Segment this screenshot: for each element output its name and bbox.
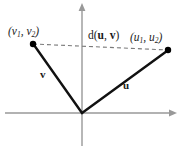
point-v-close: ): [35, 25, 39, 37]
distance-prefix: d(: [88, 29, 98, 41]
distance-dashed-line: [33, 44, 168, 50]
point-u-sub1: 1: [140, 36, 144, 45]
vector-v-label: v: [40, 69, 46, 80]
point-v-sub1: 1: [17, 30, 21, 39]
point-u-close: ): [159, 31, 163, 43]
y-axis-arrowhead-icon: [79, 3, 86, 11]
distance-close: ): [116, 29, 120, 41]
point-v-label: (v1, v2): [8, 26, 39, 38]
vector-distance-figure: (v1, v2) (u1, u2) d(u, v) v u: [0, 0, 187, 150]
vector-u-label: u: [123, 80, 129, 91]
figure-canvas: [0, 0, 187, 150]
point-u-mid: , u: [143, 31, 155, 43]
point-u-sub2: 2: [155, 36, 159, 45]
point-u-dot: [165, 47, 171, 53]
x-axis-arrowhead-icon: [169, 110, 177, 117]
point-u-label: (u1, u2): [130, 32, 162, 44]
distance-label: d(u, v): [88, 30, 119, 42]
point-v-mid: , v: [21, 25, 32, 37]
point-v-sub2: 2: [32, 30, 36, 39]
point-v-open: (v: [8, 25, 17, 37]
point-v-dot: [30, 41, 36, 47]
point-u-open: (u: [130, 31, 140, 43]
